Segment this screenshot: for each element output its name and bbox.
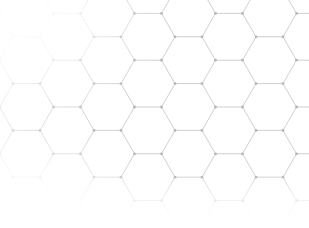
hexagon-edge [81,84,95,107]
hexagon-edge [121,60,135,83]
hexagon-vertex-node [52,59,55,62]
hexagon-edge [283,37,297,60]
hexagon-vertex-node [282,129,285,132]
hexagon-edge [283,84,297,107]
hexagon-edge [121,224,135,228]
hexagon-edge-group [0,0,309,228]
hexagon-vertex-node [201,223,204,226]
hexagon-vertex-node [241,59,244,62]
hexagon-vertex-node [120,82,123,85]
hexagon-vertex-node [214,152,217,155]
hexagon-vertex-node [12,82,15,85]
hexagon-edge [243,130,257,153]
hexagon-vertex-node [79,59,82,62]
hexagon-vertex-node [282,223,285,226]
hexagon-vertex-node [133,199,136,202]
hexagon-edge [202,13,216,36]
hexagon-lattice-drawing [0,0,309,228]
hexagon-edge [162,84,176,107]
hexagon-edge [40,37,54,60]
hexagon-edge [202,177,216,200]
hexagon-edge [81,224,95,228]
hexagon-edge [243,107,257,130]
hexagon-vertex-node [214,59,217,62]
hexagon-vertex-node [295,12,298,15]
hexagon-edge [81,0,95,13]
hexagon-vertex-node [174,82,177,85]
hexagon-edge [40,13,54,36]
hexagon-vertex-node [241,152,244,155]
hexagon-vertex-node [174,129,177,132]
hexagon-vertex-node [160,106,163,109]
hexagon-vertex-node [93,35,96,38]
hexagon-edge [202,84,216,107]
hexagon-edge [162,0,176,13]
hexagon-edge [283,224,297,228]
hexagon-edge [0,177,13,200]
hexagon-vertex-node [174,35,177,38]
hexagon-vertex-node [295,106,298,109]
hexagon-edge [0,13,13,36]
hexagon-vertex-node [282,35,285,38]
hexagon-edge [81,201,95,224]
hexagon-vertex-node [120,129,123,132]
hexagon-edge [162,177,176,200]
hexagon-edge [121,177,135,200]
hexagon-edge [283,60,297,83]
hexagon-edge [283,13,297,36]
hexagon-vertex-node [52,152,55,155]
hexagon-edge [81,177,95,200]
hexagon-vertex-node [160,59,163,62]
hexagon-edge [81,107,95,130]
hexagon-vertex-node [0,59,1,62]
hexagon-vertex-node [133,12,136,15]
hexagon-edge [81,13,95,36]
hexagon-vertex-node [255,129,258,132]
hexagon-edge [243,177,257,200]
hexagon-vertex-node [201,129,204,132]
hexagon-vertex-node [214,199,217,202]
hexagon-edge [121,107,135,130]
hexagon-vertex-node [120,176,123,179]
hexagon-edge [0,154,13,177]
hexagon-vertex-node [79,106,82,109]
hexagon-edge [40,177,54,200]
hexagon-edge [243,84,257,107]
hexagon-edge [81,130,95,153]
hexagon-edge [202,60,216,83]
hexagon-edge [202,154,216,177]
hexagon-edge [121,0,135,13]
hexagon-edge [162,224,176,228]
hexagon-vertex-node [214,12,217,15]
hexagon-edge [243,154,257,177]
hexagon-vertex-node [39,129,42,132]
hexagon-vertex-node [52,199,55,202]
hexagon-edge [283,0,297,13]
hexagon-edge [202,107,216,130]
hexagon-vertex-node [255,82,258,85]
hexagon-edge [40,154,54,177]
hexagon-vertex-node [0,199,1,202]
hexagon-vertex-node [214,106,217,109]
hexagon-edge [121,13,135,36]
hexagon-vertex-node [0,12,1,15]
hexagon-edge [162,13,176,36]
hexagon-vertex-node [12,176,15,179]
hexagon-vertex-node [201,82,204,85]
hexagon-edge [202,0,216,13]
hexagon-lattice-canvas [0,0,309,228]
hexagon-edge [0,60,13,83]
hexagon-vertex-node [39,223,42,226]
hexagon-edge [40,84,54,107]
hexagon-vertex-node [93,129,96,132]
hexagon-vertex-node [52,12,55,15]
hexagon-vertex-node [241,199,244,202]
hexagon-edge [40,107,54,130]
hexagon-vertex-node [79,12,82,15]
hexagon-edge [81,154,95,177]
hexagon-edge [202,224,216,228]
hexagon-edge [162,130,176,153]
hexagon-vertex-node [39,82,42,85]
hexagon-edge [283,130,297,153]
hexagon-vertex-node [133,106,136,109]
